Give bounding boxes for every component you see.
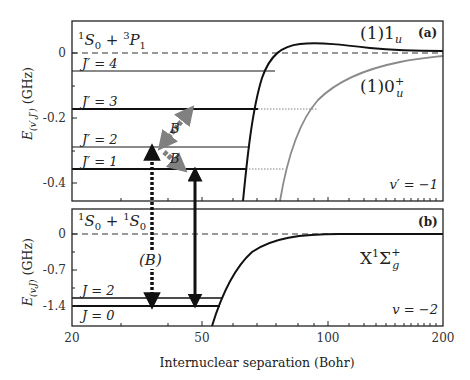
ytick-a-2: -0.4 [43, 176, 67, 190]
level-label-j4: J′ = 4 [79, 56, 118, 71]
level-label-j1: J′ = 1 [79, 154, 118, 169]
curve-label-1-1u: (1)1u [360, 23, 402, 46]
ytick-b-1: -0.7 [43, 263, 66, 277]
xtick-20: 20 [64, 331, 79, 345]
panel-b: 0 -0.7 -1.4 E(v,J) (GHz) 1S0 + 1S0 J = 2… [20, 209, 443, 326]
y-axis-title-a: E(v′,J′) (GHz) [20, 67, 38, 141]
panel-tag-b: (b) [418, 215, 438, 229]
xtick-100: 100 [317, 331, 340, 345]
asymptote-label-b: 1S0 + 1S0 [78, 211, 146, 232]
level-label-jb2: J = 2 [79, 283, 115, 298]
panel-a-frame [72, 21, 443, 201]
level-label-jb0: J = 0 [79, 308, 115, 323]
panel-tag-a: (a) [418, 26, 437, 40]
level-label-j3: J′ = 3 [79, 94, 118, 109]
xtick-50: 50 [194, 331, 209, 345]
b-label-paren-overlay: (B) [139, 251, 162, 269]
figure: 0 -0.2 -0.4 E(v′,J′) (GHz) 1S0 + 3P1 J′ … [0, 0, 470, 380]
y-ticks-a [72, 53, 77, 183]
xtick-200: 200 [432, 331, 455, 345]
vib-label-b: v = −2 [392, 302, 438, 317]
asymptote-label-a: 1S0 + 3P1 [78, 30, 146, 51]
level-label-j2: J′ = 2 [79, 132, 118, 147]
ytick-b-0: 0 [58, 227, 66, 241]
y-ticks-b [72, 234, 77, 306]
ytick-a-1: -0.2 [43, 111, 66, 125]
vib-label-a: v′ = −1 [389, 177, 438, 192]
y-axis-title-b: E(v,J) (GHz) [20, 238, 38, 307]
curve-label-x-sigma: X1Σ+g [360, 246, 400, 272]
b-label-lower: B [169, 151, 180, 166]
x-axis-title: Internuclear separation (Bohr) [159, 355, 354, 370]
panel-a: 0 -0.2 -0.4 E(v′,J′) (GHz) 1S0 + 3P1 J′ … [20, 21, 443, 201]
b-label-upper: B [169, 121, 180, 136]
x-ticks-b [121, 321, 436, 326]
curve-label-1-0u-plus: (1)0+u [360, 75, 404, 100]
ytick-a-0: 0 [58, 46, 66, 60]
ytick-b-2: -1.4 [43, 299, 67, 313]
